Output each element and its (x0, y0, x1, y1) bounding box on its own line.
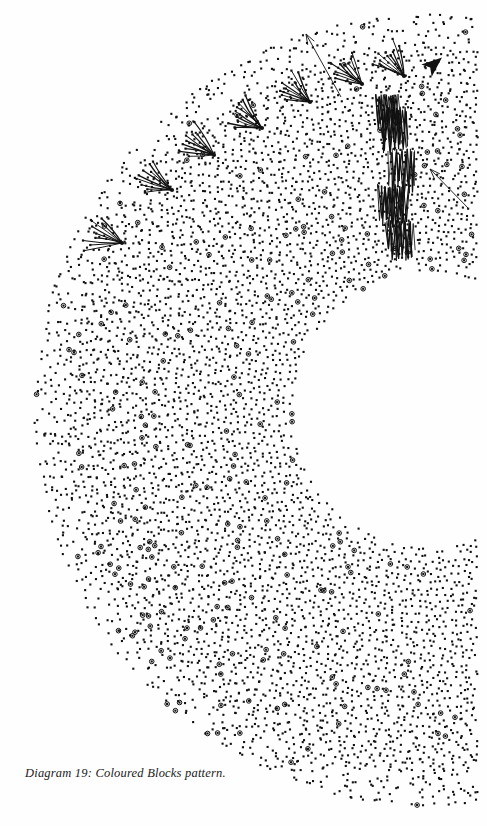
figure-root: Diagram 19: Coloured Blocks pattern. (0, 0, 487, 826)
diagram-canvas (0, 0, 487, 826)
figure-caption: Diagram 19: Coloured Blocks pattern. (25, 766, 226, 781)
